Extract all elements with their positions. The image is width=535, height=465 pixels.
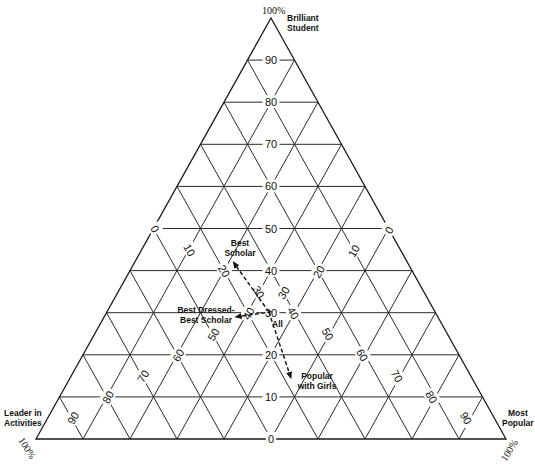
left-axis-name-line2: Activities [4,418,42,428]
tick-leader-60: 60 [168,345,188,366]
point-label-best-dressed-best-scholar: Best Scholar [180,315,233,325]
tick-brilliant-70: 70 [263,137,280,150]
tick-brilliant-50: 50 [263,222,280,235]
top-axis-name-line1: Brilliant [287,13,319,23]
tick-leader-20: 20 [309,261,329,282]
tick-brilliant-0: 0 [266,432,276,445]
point-label-best-scholar: Best [231,238,250,248]
svg-text:50: 50 [265,223,277,235]
tick-brilliant-90: 90 [263,53,280,66]
left-axis-max-label: 100% [16,435,38,461]
tick-leader-70: 70 [133,365,153,386]
svg-text:80: 80 [265,96,277,108]
tick-leader-80: 80 [98,386,118,407]
svg-text:10: 10 [265,391,277,403]
svg-text:70: 70 [265,138,277,150]
svg-text:0: 0 [268,433,274,445]
svg-text:60: 60 [265,180,277,192]
tick-leader-40: 40 [238,303,258,324]
tick-popular-50: 50 [318,323,338,344]
tick-popular-20: 20 [215,260,235,281]
point-label-best-dressed-best-scholar: Best Dressed- [177,305,234,315]
tick-brilliant-40: 40 [263,264,280,277]
tick-popular-90: 90 [457,407,477,428]
tick-popular-10: 10 [180,239,200,260]
tick-leader-0: 0 [380,222,396,238]
right-axis-max-label: 100% [498,437,520,463]
svg-text:90: 90 [265,54,277,66]
left-axis-name-line1: Leader in [4,408,42,418]
tick-popular-40: 40 [284,302,304,323]
tick-leader-90: 90 [63,407,83,428]
tick-brilliant-80: 80 [263,95,280,108]
svg-text:40: 40 [265,265,277,277]
right-axis-name-line2: Popular [502,418,534,428]
point-label-all: All [272,319,283,329]
tick-labels: 0102030405060708090010203040506070809001… [63,53,477,445]
tick-leader-10: 10 [344,240,364,261]
point-label-best-scholar: Scholar [224,248,256,258]
tick-popular-80: 80 [422,386,442,407]
tick-leader-50: 50 [203,324,223,345]
point-label-popular-with-girls: with Girls [297,381,337,391]
svg-text:20: 20 [265,349,277,361]
tick-brilliant-60: 60 [263,179,280,192]
right-axis-name-line1: Most [508,408,528,418]
top-axis-name-line2: Student [287,23,319,33]
point-label-popular-with-girls: Popular [301,371,333,381]
ternary-chart: 0102030405060708090010203040506070809001… [0,0,535,465]
grid-lines [60,60,483,439]
tick-leader-30: 30 [273,282,293,303]
tick-brilliant-10: 10 [263,390,280,403]
tick-brilliant-20: 20 [263,348,280,361]
top-axis-max-label: 100% [262,5,285,16]
